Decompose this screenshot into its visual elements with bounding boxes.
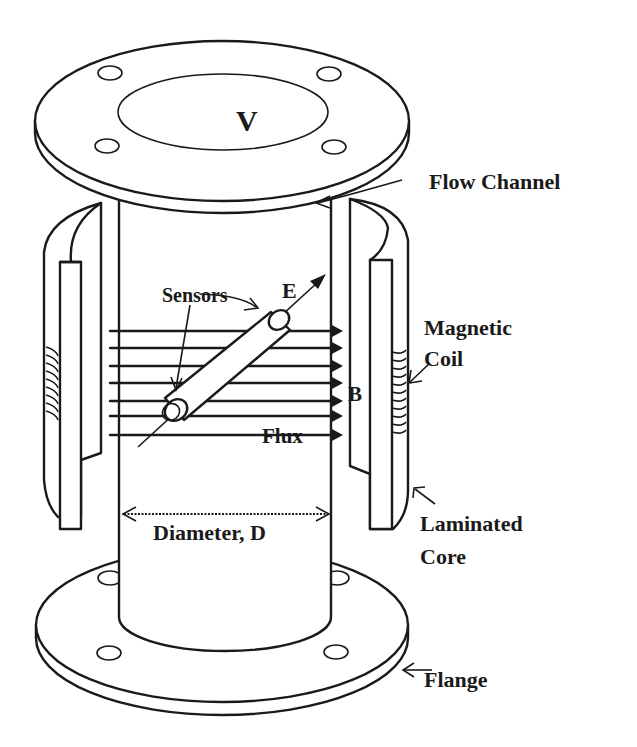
flowmeter-diagram: V Flow Channel Sensors E B Flux Magnetic… [0, 0, 637, 747]
sensors-label: Sensors [162, 284, 228, 306]
laminated-core-label-line1: Laminated [420, 511, 523, 536]
diameter-label: Diameter, D [153, 520, 266, 545]
top-flange [35, 41, 409, 213]
left-laminated-core [44, 203, 101, 529]
laminated-core-pointer [413, 487, 435, 504]
flow-channel-label: Flow Channel [429, 169, 560, 194]
right-laminated-core [350, 199, 408, 529]
magnetic-coil-label-line2: Coil [424, 346, 463, 371]
magnetic-coil-label-line1: Magnetic [424, 315, 512, 340]
flux-label: Flux [262, 424, 303, 448]
laminated-core-label-line2: Core [420, 544, 466, 569]
electric-field-label: E [282, 278, 297, 303]
flow-channel [119, 195, 331, 651]
velocity-label: V [236, 104, 258, 137]
magnetic-field-label: B [348, 382, 362, 406]
flange-label: Flange [424, 667, 488, 692]
